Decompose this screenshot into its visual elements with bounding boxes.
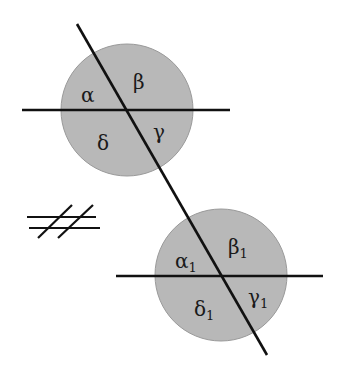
label-beta: β — [133, 70, 145, 94]
label-delta: δ — [97, 131, 109, 155]
angles-diagram: α β γ δ α1 β1 γ1 δ1 — [0, 0, 337, 370]
not-parallel-icon — [27, 205, 100, 238]
label-alpha: α — [81, 83, 95, 107]
label-gamma: γ — [153, 120, 165, 144]
